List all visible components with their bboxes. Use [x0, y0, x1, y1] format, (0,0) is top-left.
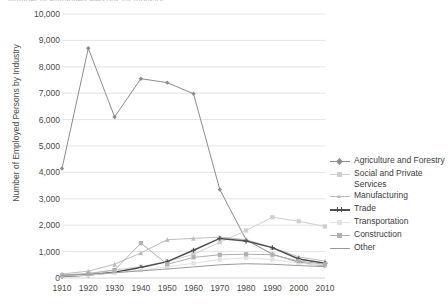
legend-swatch-icon — [330, 230, 350, 241]
legend-item-label: Other — [354, 242, 375, 253]
data-point-marker — [191, 255, 195, 259]
data-point-marker — [270, 253, 274, 257]
data-point-marker — [218, 240, 222, 244]
data-point-marker — [218, 257, 222, 261]
x-axis-tick-label: 1960 — [184, 283, 203, 293]
series-line — [62, 264, 325, 276]
legend-item[interactable]: Agriculture and Forestry — [330, 155, 448, 167]
data-point-marker — [323, 224, 327, 228]
series-line — [60, 241, 327, 278]
legend-swatch-icon — [330, 217, 350, 228]
data-point-marker — [244, 228, 248, 232]
legend-item-label: Transportation — [354, 216, 409, 227]
data-point-marker — [139, 268, 143, 272]
data-point-marker — [191, 261, 195, 265]
legend-swatch-icon — [330, 191, 350, 202]
series-layer — [60, 46, 328, 279]
legend-swatch-icon — [330, 169, 350, 180]
legend-swatch-icon — [330, 243, 350, 254]
legend-item[interactable]: Other — [330, 242, 448, 254]
x-axis-tick-label: 1940 — [131, 283, 150, 293]
data-point-marker — [218, 187, 222, 191]
legend-item[interactable]: Trade — [330, 203, 448, 215]
data-point-marker — [60, 166, 64, 170]
legend-item[interactable]: Social and Private Services — [330, 168, 448, 189]
chart-container: Number of Employed Persons by Industry N… — [0, 0, 448, 306]
x-axis-tick-label: 1920 — [79, 283, 98, 293]
data-point-marker — [139, 241, 143, 245]
legend-item-label: Manufacturing — [354, 190, 408, 201]
data-point-marker — [191, 92, 195, 96]
legend-item-label: Trade — [354, 203, 376, 214]
data-point-marker — [218, 253, 222, 257]
x-axis-tick-label: 1990 — [263, 283, 282, 293]
legend-item[interactable]: Manufacturing — [330, 190, 448, 202]
data-point-marker — [244, 256, 248, 260]
series-line — [60, 46, 327, 268]
chart-legend: Agriculture and ForestrySocial and Priva… — [330, 155, 448, 255]
data-point-marker — [244, 252, 248, 256]
x-axis-tick-label: 1970 — [210, 283, 229, 293]
x-axis-tick-label: 1980 — [237, 283, 256, 293]
legend-item-label: Agriculture and Forestry — [354, 155, 445, 166]
x-axis-tick-label: 1910 — [53, 283, 72, 293]
series-path — [62, 264, 325, 276]
legend-swatch-icon — [330, 204, 350, 215]
data-point-marker — [113, 268, 117, 272]
data-point-marker — [323, 262, 327, 266]
series-path — [62, 48, 325, 266]
x-axis-tick-label: 1930 — [105, 283, 124, 293]
x-axis-tick-label: 1950 — [158, 283, 177, 293]
plot-area — [0, 0, 448, 306]
series-path — [62, 217, 325, 275]
data-point-marker — [297, 259, 301, 263]
data-point-marker — [165, 262, 169, 266]
data-point-marker — [270, 257, 274, 261]
legend-item-label: Social and Private Services — [354, 168, 448, 189]
x-axis-tick-label: 2010 — [316, 283, 335, 293]
legend-swatch-icon — [330, 156, 350, 167]
legend-item-label: Construction — [354, 229, 402, 240]
x-axis-tick-label: 2000 — [289, 283, 308, 293]
data-point-marker — [86, 46, 90, 50]
data-point-marker — [297, 219, 301, 223]
data-point-marker — [270, 215, 274, 219]
data-point-marker — [165, 80, 169, 84]
legend-item[interactable]: Transportation — [330, 216, 448, 228]
legend-item[interactable]: Construction — [330, 229, 448, 241]
